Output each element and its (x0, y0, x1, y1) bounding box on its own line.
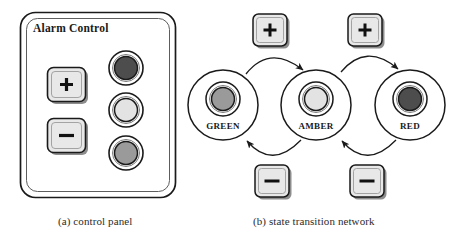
network-plus-button-1[interactable] (253, 14, 290, 49)
network-minus-button-1[interactable] (255, 165, 292, 200)
caption-control-panel: (a) control panel (58, 215, 132, 227)
network-plus-button-2[interactable] (348, 14, 385, 49)
arc-amber-to-red (341, 56, 398, 72)
control-panel (21, 13, 176, 198)
arc-red-to-amber (342, 140, 396, 155)
panel-light-amber (109, 93, 143, 127)
alarm-control-figure: Alarm Control GREEN AMBER RED (a) contro… (0, 0, 451, 244)
panel-light-red (109, 51, 143, 85)
panel-title: Alarm Control (33, 22, 109, 34)
state-label-red: RED (400, 121, 420, 131)
network-minus-button-2[interactable] (350, 165, 387, 200)
caption-state-transition-network: (b) state transition network (253, 215, 375, 227)
panel-light-green (109, 136, 143, 170)
arc-amber-to-green (247, 140, 301, 155)
panel-inner-bezel (27, 19, 170, 192)
panel-minus-button[interactable] (48, 119, 89, 156)
arc-green-to-amber (246, 58, 303, 74)
state-label-amber: AMBER (299, 121, 334, 131)
panel-plus-button[interactable] (48, 68, 89, 105)
state-transition-network (188, 14, 445, 200)
state-label-green: GREEN (206, 121, 240, 131)
